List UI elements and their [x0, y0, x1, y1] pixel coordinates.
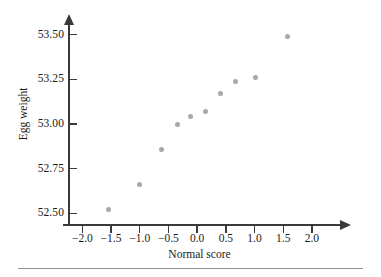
x-axis-title-label: Normal score: [168, 248, 230, 260]
y-tick-mark: [70, 34, 77, 35]
y-tick-label: 52.75: [18, 162, 64, 176]
y-tick-label-text: 52.75: [38, 162, 64, 174]
scatter-point: [253, 75, 258, 80]
scatter-point: [159, 147, 164, 152]
scatter-point: [218, 91, 223, 96]
y-tick-mark: [70, 168, 77, 169]
scatter-point: [285, 34, 290, 39]
y-tick-mark: [70, 213, 77, 214]
y-axis-arrow-icon: [64, 14, 74, 25]
y-tick-label: 52.50: [18, 206, 64, 220]
x-tick-label: 2.0: [292, 232, 332, 244]
scatter-point: [175, 122, 180, 127]
scatter-point: [233, 79, 238, 84]
y-tick-mark: [70, 123, 77, 124]
y-tick-label-text: 53.00: [38, 117, 64, 129]
y-tick-label-text: 52.50: [38, 206, 64, 218]
normal-probability-plot-figure: 52.5052.7553.0053.2553.50 −2.0−1.5−1.0−0…: [0, 0, 381, 277]
x-axis-title: Normal score: [0, 248, 381, 260]
x-axis-line: [63, 224, 343, 226]
footer-divider: [18, 268, 363, 269]
y-tick-mark: [70, 79, 77, 80]
y-tick-label-text: 53.50: [38, 28, 64, 40]
x-axis-arrow-icon: [340, 220, 351, 230]
plot-area: [68, 24, 332, 224]
y-tick-label-text: 53.25: [38, 72, 64, 84]
y-axis-title: Egg weight: [17, 69, 29, 159]
y-tick-label: 53.50: [18, 28, 64, 42]
